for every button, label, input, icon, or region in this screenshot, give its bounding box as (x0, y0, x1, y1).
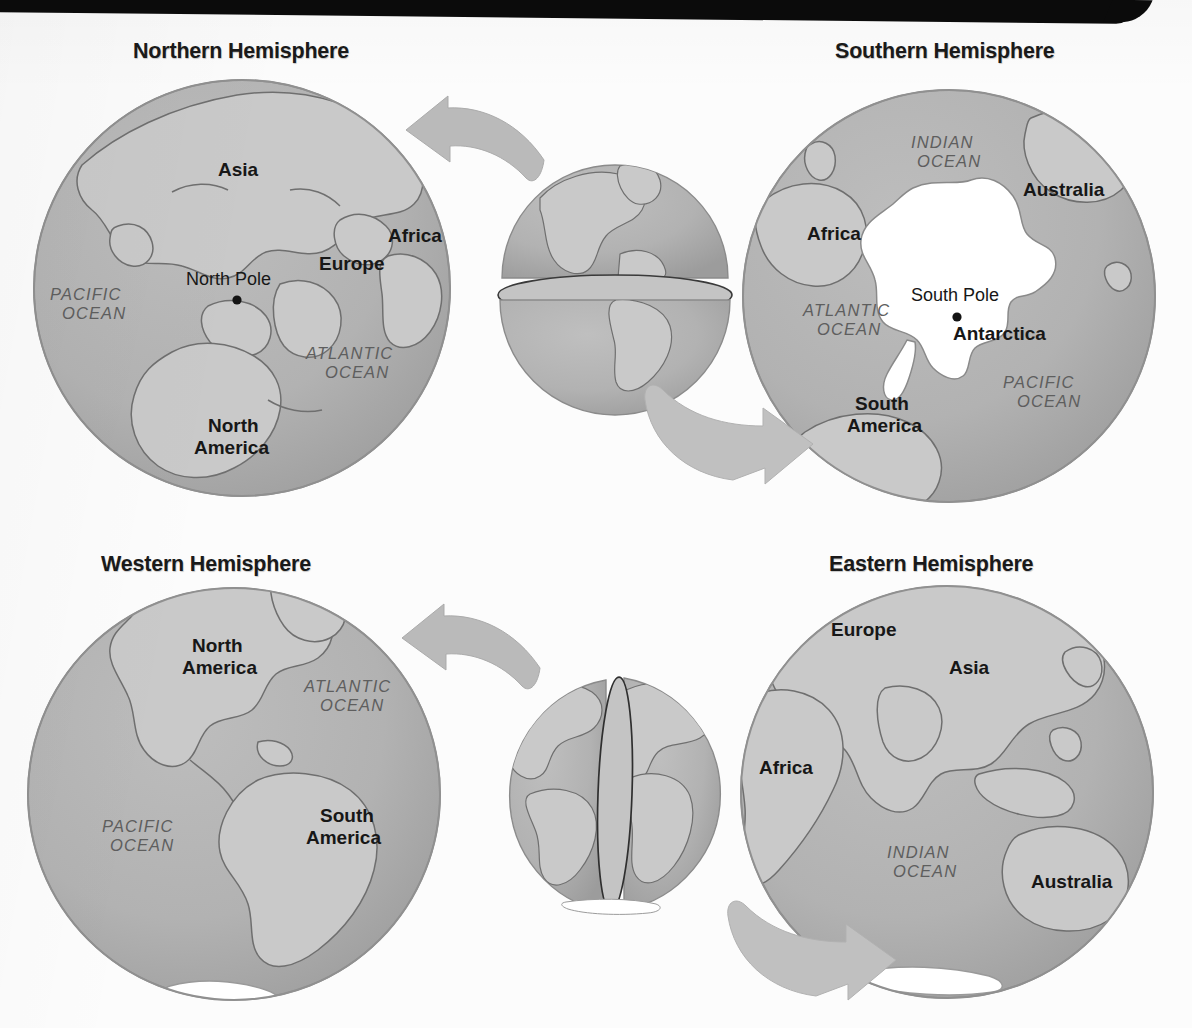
label-north-america-line2: America (194, 437, 269, 458)
landmass-india (877, 686, 942, 761)
label-atlantic-ocean-line2: OCEAN (817, 320, 881, 338)
label-north-america-line2: America (182, 657, 257, 678)
south-pole-marker (952, 312, 961, 321)
arrow-shape (728, 901, 896, 1000)
label-atlantic-ocean-line1: ATLANTIC (303, 677, 391, 695)
globe-split-by-prime-meridian (488, 668, 738, 924)
label-asia: Asia (949, 657, 990, 678)
arrow-shape (406, 96, 544, 181)
label-north-america-line1: North (192, 635, 243, 656)
label-africa: Africa (807, 223, 861, 244)
label-pacific-ocean-line1: PACIFIC (50, 285, 122, 303)
figure-page: Northern Hemisphere Southern Hemisphere … (0, 0, 1192, 1028)
label-indian-ocean-line1: INDIAN (911, 133, 974, 151)
arrow-to-eastern-hemisphere (728, 898, 908, 1010)
label-indian-ocean-line2: OCEAN (917, 152, 981, 170)
label-pacific-ocean-line2: OCEAN (62, 304, 126, 322)
north-pole-marker (232, 295, 241, 304)
label-atlantic-ocean-line2: OCEAN (325, 363, 389, 381)
label-indian-ocean-line1: INDIAN (887, 843, 950, 861)
label-north-america-line1: North (208, 415, 259, 436)
label-atlantic-ocean-line2: OCEAN (320, 696, 384, 714)
label-pacific-ocean-line1: PACIFIC (1003, 373, 1075, 391)
label-asia: Asia (218, 159, 259, 180)
panel-title-eastern: Eastern Hemisphere (829, 552, 1033, 577)
label-atlantic-ocean-line1: ATLANTIC (802, 301, 890, 319)
panel-title-southern: Southern Hemisphere (835, 39, 1055, 64)
label-africa: Africa (388, 225, 442, 246)
label-south-america-line2: America (306, 827, 381, 848)
label-pacific-ocean-line2: OCEAN (1017, 392, 1081, 410)
scan-artifact-bar (0, 0, 1130, 24)
label-pacific-ocean-line2: OCEAN (110, 836, 174, 854)
landmass-antarctica-sliver (562, 899, 660, 914)
label-north-pole: North Pole (186, 269, 271, 289)
label-south-america-line1: South (855, 393, 909, 414)
arrow-shape (402, 604, 540, 689)
hemisphere-left-half (506, 680, 606, 912)
label-indian-ocean-line2: OCEAN (893, 862, 957, 880)
arrow-to-western-hemisphere (388, 608, 540, 704)
hemisphere-right-half (624, 678, 720, 910)
arrow-to-southern-hemisphere (645, 382, 825, 494)
label-south-america-line2: America (847, 415, 922, 436)
arrow-shape (645, 385, 813, 484)
panel-title-northern: Northern Hemisphere (133, 39, 349, 64)
label-antarctica: Antarctica (953, 323, 1046, 344)
panel-title-western: Western Hemisphere (101, 552, 311, 577)
label-europe: Europe (319, 253, 384, 274)
arrow-to-northern-hemisphere (392, 100, 544, 196)
label-australia: Australia (1031, 871, 1113, 892)
label-africa: Africa (759, 757, 813, 778)
label-atlantic-ocean-line1: ATLANTIC (305, 344, 393, 362)
label-europe: Europe (831, 619, 896, 640)
label-australia: Australia (1023, 179, 1105, 200)
label-south-pole: South Pole (911, 285, 999, 305)
label-south-america-line1: South (320, 805, 374, 826)
label-pacific-ocean-line1: PACIFIC (102, 817, 174, 835)
